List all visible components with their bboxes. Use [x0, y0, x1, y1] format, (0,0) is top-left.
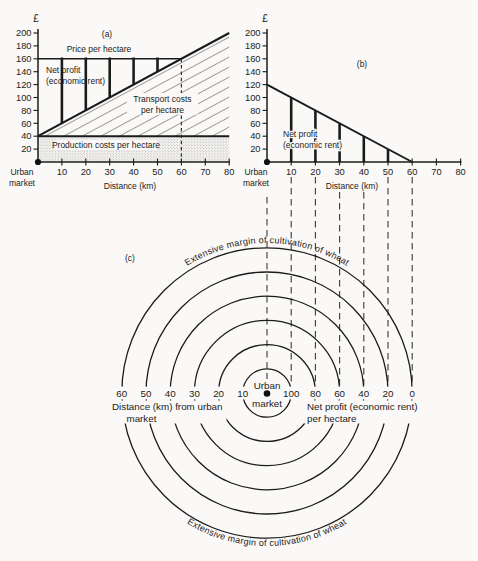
x-tick-label: 10	[286, 167, 296, 177]
y-tick-label: 200	[245, 28, 261, 38]
y-tick-label: 20	[250, 144, 260, 154]
net-profit-label-b1: Net profit	[283, 129, 318, 139]
origin-label-b1: Urban	[244, 167, 267, 177]
profit-axis-label-2: per hectare	[307, 413, 357, 424]
y-tick-label: 20	[21, 144, 31, 154]
x-tick-label: 70	[431, 167, 441, 177]
y-tick-label: 140	[245, 67, 261, 77]
y-tick-label: 40	[21, 131, 31, 141]
distance-ring-label: 10	[237, 388, 248, 399]
x-tick-label: 50	[152, 167, 162, 177]
y-tick-label: 60	[250, 119, 260, 129]
x-tick-label: 70	[200, 167, 210, 177]
panel-a: £ 200 180 160 140 120 100 80 60 40 20 10…	[9, 13, 234, 191]
pound-label-b: £	[262, 13, 268, 24]
distance-axis-label-2: market	[127, 413, 157, 424]
center-label-2: market	[252, 398, 282, 409]
distance-ring-label: 60	[116, 388, 127, 399]
distance-ring-label: 20	[213, 388, 224, 399]
x-tick-label: 10	[57, 167, 67, 177]
production-label: Production costs per hectare	[52, 140, 160, 150]
von-thunen-figure: £ 200 180 160 140 120 100 80 60 40 20 10…	[0, 0, 478, 561]
x-tick-label: 20	[81, 167, 91, 177]
x-tick-label: 80	[455, 167, 465, 177]
x-tick-label: 30	[334, 167, 344, 177]
net-profit-label-a1: Net profit	[46, 65, 81, 75]
distance-axis-label-1: Distance (km) from urban	[112, 401, 223, 412]
origin-label-a1: Urban	[10, 167, 33, 177]
extensive-margin-text-bottom: Extensive margin of cultivation of wheat	[186, 516, 348, 548]
profit-ring-label: 0	[409, 388, 415, 399]
origin-label-b2: market	[243, 178, 270, 188]
x-axis-title-b: Distance (km)	[326, 181, 379, 191]
distance-ring-label: 50	[141, 388, 152, 399]
net-profit-label-a2: (economic rent)	[46, 76, 105, 86]
panel-b-y-labels: 200 180 160 140 120 100 80 60 40 20	[245, 28, 261, 154]
dashed-connectors	[267, 177, 412, 385]
x-tick-label: 30	[105, 167, 115, 177]
urban-market-dot-c	[264, 390, 271, 397]
x-tick-label: 20	[310, 167, 320, 177]
profit-ring-label: 40	[358, 388, 369, 399]
y-tick-label: 60	[21, 119, 31, 129]
distance-ring-label: 30	[189, 388, 200, 399]
figure-svg: £ 200 180 160 140 120 100 80 60 40 20 10…	[0, 0, 478, 561]
x-tick-label: 40	[359, 167, 369, 177]
profit-ring-label: 80	[310, 388, 321, 399]
y-tick-label: 100	[16, 93, 32, 103]
y-tick-label: 160	[16, 54, 32, 64]
x-tick-label: 40	[128, 167, 138, 177]
net-profit-label-b2: (economic rent)	[283, 140, 342, 150]
y-tick-label: 180	[16, 41, 32, 51]
y-tick-label: 100	[245, 93, 261, 103]
panel-c: 60 50 40 30 20 10 100 80 60 40 20 0 Dist…	[110, 235, 452, 548]
y-tick-label: 140	[16, 67, 32, 77]
panel-b: £ 200 180 160 140 120 100 80 60 40 20 10…	[243, 13, 466, 191]
x-tick-label: 60	[176, 167, 186, 177]
y-tick-label: 80	[21, 106, 31, 116]
x-axis-title-a: Distance (km)	[104, 181, 157, 191]
price-label: Price per hectare	[67, 44, 132, 54]
panel-a-tag: (a)	[102, 29, 113, 39]
panel-a-x-labels: 10 20 30 40 50 60 70 80	[57, 167, 235, 177]
pound-label-a: £	[33, 13, 39, 24]
distance-ring-label: 40	[165, 388, 176, 399]
profit-ring-label: 60	[334, 388, 345, 399]
y-tick-label: 120	[245, 80, 261, 90]
y-tick-label: 40	[250, 131, 260, 141]
panel-c-tag: (c)	[125, 253, 135, 263]
y-tick-label: 80	[250, 106, 260, 116]
urban-market-dot-b	[264, 159, 270, 165]
x-tick-label: 60	[407, 167, 417, 177]
extensive-margin-text-top: Extensive margin of cultivation of wheat	[183, 235, 351, 268]
panel-b-x-labels: 10 20 30 40 50 60 70 80	[286, 167, 466, 177]
panel-a-y-labels: 200 180 160 140 120 100 80 60 40 20	[16, 28, 32, 154]
x-tick-label: 50	[383, 167, 393, 177]
y-tick-label: 200	[16, 28, 32, 38]
x-tick-label: 80	[224, 167, 234, 177]
transport-label-1: Transport costs	[133, 94, 191, 104]
urban-market-dot-a	[35, 159, 41, 165]
profit-axis-label-1: Net profit (economic rent)	[307, 401, 418, 412]
y-tick-label: 120	[16, 80, 32, 90]
transport-label-2: per hectare	[141, 105, 184, 115]
ring-distance-numbers: 60 50 40 30 20 10	[116, 388, 248, 399]
origin-label-a2: market	[9, 178, 36, 188]
panel-b-tag: (b)	[357, 59, 368, 69]
profit-ring-label: 20	[383, 388, 394, 399]
y-tick-label: 180	[245, 41, 261, 51]
profit-ring-label: 100	[283, 388, 300, 399]
center-label-1: Urban	[254, 380, 281, 391]
y-tick-label: 160	[245, 54, 261, 64]
